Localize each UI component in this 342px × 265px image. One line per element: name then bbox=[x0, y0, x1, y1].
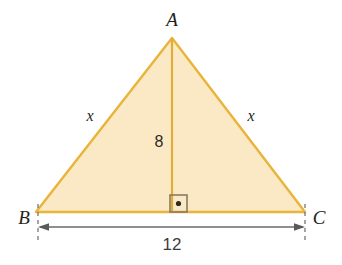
vertex-label-b: B bbox=[18, 207, 30, 228]
vertex-label-c: C bbox=[313, 207, 326, 228]
side-label-right-leg: x bbox=[246, 107, 254, 124]
arrowhead-right-icon bbox=[294, 223, 305, 231]
geometry-figure: A B C x x 8 12 bbox=[0, 0, 342, 265]
arrowhead-left-icon bbox=[38, 223, 49, 231]
base-measure-label: 12 bbox=[163, 235, 182, 254]
right-angle-dot-icon bbox=[176, 201, 181, 206]
altitude-measure-label: 8 bbox=[155, 133, 164, 150]
triangle-diagram-canvas: A B C x x 8 12 bbox=[0, 0, 342, 265]
vertex-label-a: A bbox=[164, 9, 178, 30]
side-label-left-leg: x bbox=[85, 107, 93, 124]
triangle-shape bbox=[36, 38, 305, 212]
